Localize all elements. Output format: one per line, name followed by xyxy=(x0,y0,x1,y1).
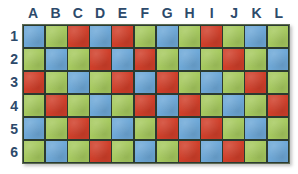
grid-cell-B5[interactable] xyxy=(46,118,67,140)
grid-cell-J4[interactable] xyxy=(223,95,244,117)
column-header-row: ABCDEFGHIJKL xyxy=(22,4,290,23)
grid-cell-J6[interactable] xyxy=(223,141,244,163)
grid-cell-D4[interactable] xyxy=(90,95,111,117)
grid-cell-K1[interactable] xyxy=(245,26,266,48)
grid-cell-L6[interactable] xyxy=(268,141,289,163)
grid-row xyxy=(23,117,289,140)
grid-cell-L2[interactable] xyxy=(268,49,289,71)
grid-cell-E4[interactable] xyxy=(112,95,133,117)
grid-cell-J3[interactable] xyxy=(223,72,244,94)
column-header-h: H xyxy=(178,4,200,23)
column-header-k: K xyxy=(245,4,267,23)
grid-cell-C4[interactable] xyxy=(68,95,89,117)
grid-cell-G6[interactable] xyxy=(157,141,178,163)
column-header-a: A xyxy=(22,4,44,23)
grid-cell-J2[interactable] xyxy=(223,49,244,71)
row-header-4: 4 xyxy=(2,94,21,117)
grid-cell-B4[interactable] xyxy=(46,95,67,117)
grid-cell-K6[interactable] xyxy=(245,141,266,163)
grid-cell-C5[interactable] xyxy=(68,118,89,140)
row-header-5: 5 xyxy=(2,117,21,140)
grid-cell-B1[interactable] xyxy=(46,26,67,48)
grid-cell-H6[interactable] xyxy=(179,141,200,163)
grid-cell-F1[interactable] xyxy=(135,26,156,48)
grid-cell-L1[interactable] xyxy=(268,26,289,48)
grid-cell-C2[interactable] xyxy=(68,49,89,71)
grid-cell-K3[interactable] xyxy=(245,72,266,94)
grid-cell-A2[interactable] xyxy=(24,49,45,71)
grid-cell-I6[interactable] xyxy=(201,141,222,163)
grid-cell-B3[interactable] xyxy=(46,72,67,94)
grid-cell-A6[interactable] xyxy=(24,141,45,163)
colored-grid-figure: ABCDEFGHIJKL 123456 xyxy=(0,0,298,174)
grid-cell-I2[interactable] xyxy=(201,49,222,71)
grid-cell-G4[interactable] xyxy=(157,95,178,117)
grid-row xyxy=(23,140,289,163)
grid-cell-F5[interactable] xyxy=(135,118,156,140)
grid-row xyxy=(23,71,289,94)
grid-cell-C3[interactable] xyxy=(68,72,89,94)
grid-cell-D3[interactable] xyxy=(90,72,111,94)
grid-cell-L5[interactable] xyxy=(268,118,289,140)
column-header-j: J xyxy=(223,4,245,23)
grid-cell-I4[interactable] xyxy=(201,95,222,117)
grid-cell-D1[interactable] xyxy=(90,26,111,48)
grid-cell-A3[interactable] xyxy=(24,72,45,94)
grid-cell-G1[interactable] xyxy=(157,26,178,48)
row-header-6: 6 xyxy=(2,141,21,164)
row-header-3: 3 xyxy=(2,71,21,94)
grid-cell-A4[interactable] xyxy=(24,95,45,117)
column-header-d: D xyxy=(89,4,111,23)
grid-cell-F3[interactable] xyxy=(135,72,156,94)
grid-cell-E3[interactable] xyxy=(112,72,133,94)
grid-row xyxy=(23,25,289,48)
column-header-b: B xyxy=(44,4,66,23)
grid-cell-H5[interactable] xyxy=(179,118,200,140)
grid-cell-F2[interactable] xyxy=(135,49,156,71)
column-header-l: L xyxy=(268,4,290,23)
row-header-1: 1 xyxy=(2,24,21,47)
grid-cell-E5[interactable] xyxy=(112,118,133,140)
grid-cell-B2[interactable] xyxy=(46,49,67,71)
grid-cell-I3[interactable] xyxy=(201,72,222,94)
grid-cell-J5[interactable] xyxy=(223,118,244,140)
grid-cell-C1[interactable] xyxy=(68,26,89,48)
grid-cell-D5[interactable] xyxy=(90,118,111,140)
column-header-c: C xyxy=(67,4,89,23)
grid-cell-D6[interactable] xyxy=(90,141,111,163)
column-header-i: I xyxy=(201,4,223,23)
grid-cell-I5[interactable] xyxy=(201,118,222,140)
grid-cell-J1[interactable] xyxy=(223,26,244,48)
grid-cell-A1[interactable] xyxy=(24,26,45,48)
grid-cell-A5[interactable] xyxy=(24,118,45,140)
grid-cell-B6[interactable] xyxy=(46,141,67,163)
grid-cell-H1[interactable] xyxy=(179,26,200,48)
column-header-e: E xyxy=(111,4,133,23)
grid-cell-I1[interactable] xyxy=(201,26,222,48)
row-header-column: 123456 xyxy=(2,24,21,164)
grid-cell-G5[interactable] xyxy=(157,118,178,140)
grid-cell-C6[interactable] xyxy=(68,141,89,163)
grid-cell-K4[interactable] xyxy=(245,95,266,117)
grid-cell-E1[interactable] xyxy=(112,26,133,48)
column-header-f: F xyxy=(134,4,156,23)
grid-cell-F4[interactable] xyxy=(135,95,156,117)
grid-cell-E6[interactable] xyxy=(112,141,133,163)
grid-cell-L3[interactable] xyxy=(268,72,289,94)
grid-cell-H2[interactable] xyxy=(179,49,200,71)
grid-cell-H4[interactable] xyxy=(179,95,200,117)
grid-row xyxy=(23,94,289,117)
grid-board xyxy=(22,24,290,164)
grid-cell-D2[interactable] xyxy=(90,49,111,71)
grid-cell-L4[interactable] xyxy=(268,95,289,117)
grid-cell-K5[interactable] xyxy=(245,118,266,140)
column-header-g: G xyxy=(156,4,178,23)
row-header-2: 2 xyxy=(2,47,21,70)
grid-cell-G3[interactable] xyxy=(157,72,178,94)
grid-cell-E2[interactable] xyxy=(112,49,133,71)
grid-cell-H3[interactable] xyxy=(179,72,200,94)
grid-cell-G2[interactable] xyxy=(157,49,178,71)
grid-row xyxy=(23,48,289,71)
grid-cell-K2[interactable] xyxy=(245,49,266,71)
grid-cell-F6[interactable] xyxy=(135,141,156,163)
